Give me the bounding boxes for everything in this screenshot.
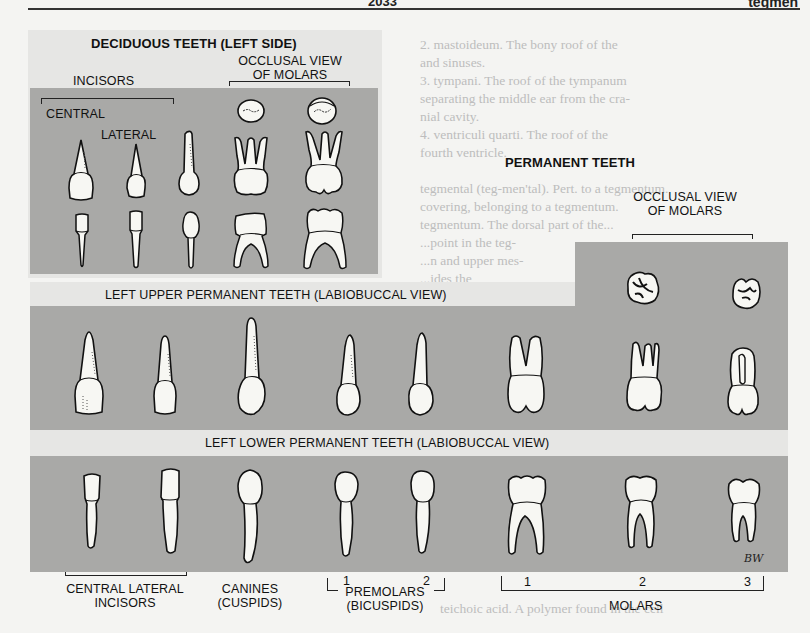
bg-line: covering, belonging to a tegmentum.: [420, 198, 619, 216]
molars-bracket: [501, 576, 764, 591]
deciduous-lower-lateral-incisor-icon: [126, 210, 146, 270]
lower-molar-2-icon: [622, 474, 660, 550]
lower-molar-3-icon: [725, 476, 763, 546]
upper-premolar-2-icon: [406, 331, 434, 419]
deciduous-lower-molar-1-icon: [232, 212, 270, 270]
bg-line: ...point in the teg-: [420, 234, 516, 252]
permanent-occlusal-bracket: [632, 234, 753, 239]
header-rule: [28, 8, 800, 10]
premolars-label-line1: PREMOLARS: [330, 585, 440, 599]
deciduous-molar-2-occlusal-icon: [306, 96, 338, 126]
molar-3-number: 3: [744, 575, 751, 589]
lower-central-incisor-icon: [80, 472, 104, 552]
permanent-molar-2-occlusal-icon: [730, 276, 762, 310]
bg-line: fourth ventricle.: [420, 144, 507, 162]
bg-line: separating the middle ear from the cra-: [420, 90, 630, 108]
bg-line: 4. ventriculi quarti. The roof of the: [420, 126, 608, 144]
deciduous-lower-canine-icon: [180, 210, 202, 272]
deciduous-occlusal-label-line1: OCCLUSAL VIEW: [225, 54, 355, 68]
upper-molar-3-icon: [726, 346, 760, 418]
permanent-occlusal-label-line2: OF MOLARS: [620, 204, 750, 218]
deciduous-upper-central-incisor-icon: [66, 138, 96, 204]
deciduous-central-label: CENTRAL: [46, 107, 105, 121]
deciduous-lower-molar-2-icon: [302, 207, 348, 271]
upper-molar-2-icon: [625, 340, 663, 416]
bg-line: 3. tympani. The roof of the tympanum: [420, 72, 627, 90]
incisors-label-line2: INCISORS: [50, 596, 200, 610]
deciduous-occlusal-label-line2: OF MOLARS: [225, 68, 355, 82]
premolars-label-line2: (BICUSPIDS): [330, 599, 440, 613]
upper-molar-1-icon: [506, 334, 546, 418]
deciduous-title: DECIDUOUS TEETH (LEFT SIDE): [91, 36, 297, 51]
deciduous-upper-canine-icon: [177, 130, 201, 198]
upper-canine-icon: [236, 316, 268, 418]
molars-label: MOLARS: [609, 599, 662, 613]
upper-central-incisor-icon: [73, 330, 105, 420]
canines-label-line1: CANINES: [210, 582, 290, 596]
bg-line: nial cavity.: [420, 108, 479, 126]
incisors-label: CENTRAL LATERAL INCISORS: [50, 582, 200, 610]
bg-line: 2. mastoideum. The bony roof of the: [420, 36, 618, 54]
deciduous-molar-1-occlusal-icon: [236, 98, 266, 124]
molar-1-number: 1: [524, 575, 531, 589]
deciduous-incisors-bracket: [41, 98, 174, 104]
permanent-occlusal-label-line1: OCCLUSAL VIEW: [620, 190, 750, 204]
upper-permanent-title: LEFT UPPER PERMANENT TEETH (LABIOBUCCAL …: [105, 288, 447, 302]
bg-line: tegmentum. The dorsal part of the...: [420, 216, 614, 234]
permanent-molar-1-occlusal-icon: [625, 270, 661, 306]
bg-line: and sinuses.: [420, 54, 485, 72]
lower-premolar-1-icon: [333, 470, 361, 560]
incisors-bracket: [65, 572, 187, 576]
lower-premolar-2-icon: [409, 469, 437, 557]
lower-lateral-incisor-icon: [157, 467, 183, 557]
premolars-label: PREMOLARS (BICUSPIDS): [330, 585, 440, 613]
deciduous-upper-molar-2-icon: [303, 130, 345, 200]
deciduous-occlusal-label: OCCLUSAL VIEW OF MOLARS: [225, 54, 355, 82]
lower-canine-icon: [236, 468, 266, 568]
artist-signature: BW: [744, 552, 763, 565]
canines-label: CANINES (CUSPIDS): [210, 582, 290, 610]
molar-2-number: 2: [639, 575, 646, 589]
canines-label-line2: (CUSPIDS): [210, 596, 290, 610]
incisors-label-line1: CENTRAL LATERAL: [50, 582, 200, 596]
deciduous-lateral-label: LATERAL: [101, 128, 156, 142]
permanent-occlusal-label: OCCLUSAL VIEW OF MOLARS: [620, 190, 750, 218]
permanent-title: PERMANENT TEETH: [505, 155, 635, 170]
deciduous-lower-central-incisor-icon: [72, 213, 92, 269]
upper-premolar-1-icon: [334, 333, 362, 419]
lower-molar-1-icon: [505, 474, 549, 558]
deciduous-upper-molar-1-icon: [231, 136, 271, 198]
deciduous-incisors-label: INCISORS: [73, 74, 134, 88]
deciduous-upper-lateral-incisor-icon: [124, 142, 148, 200]
deciduous-occlusal-bracket: [229, 81, 350, 86]
bg-line: ...n and upper mes-: [420, 252, 523, 270]
lower-permanent-title: LEFT LOWER PERMANENT TEETH (LABIOBUCCAL …: [205, 436, 549, 450]
upper-lateral-incisor-icon: [152, 334, 178, 418]
